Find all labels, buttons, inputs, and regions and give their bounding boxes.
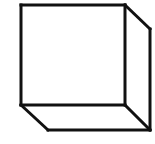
cube-drawing [0, 0, 155, 144]
bottom-right-diagonal-edge [125, 105, 150, 130]
top-right-diagonal-edge [125, 5, 150, 29]
cube-diagram: Cube line drawing [0, 0, 155, 144]
bottom-left-diagonal-edge [21, 105, 48, 130]
